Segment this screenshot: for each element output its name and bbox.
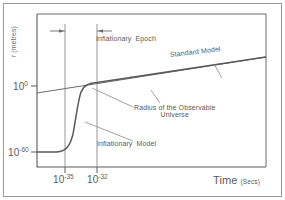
x-tick-label-1: 10-35	[53, 174, 74, 186]
y-tick-label-bottom: 10-60	[8, 147, 29, 159]
x-axis-title-text: Time	[213, 174, 237, 186]
y-tick-label-top: 100	[13, 81, 28, 93]
x-tick-1-exponent: -35	[64, 173, 73, 180]
y-axis-title: r (metres)	[10, 11, 17, 73]
x-axis-title-units: (Secs)	[241, 178, 260, 185]
epoch-boundary-lines	[65, 24, 97, 167]
x-tick-2-mantissa: 10	[87, 174, 98, 185]
annotation-radius-observable-universe: Radius of the Observable Universe	[134, 104, 215, 119]
inflation-cosmology-figure: r (metres) 100 10-60 10-35 10-32 Time (S…	[0, 0, 285, 200]
annotation-inflationary-epoch: Inflationary Epoch	[96, 35, 156, 42]
x-tick-2-exponent: -32	[98, 173, 107, 180]
epoch-span-arrows	[50, 29, 112, 33]
annotation-leader-lines	[85, 64, 222, 141]
y-tick-top-mantissa: 10	[13, 81, 24, 92]
y-tick-top-exponent: 0	[24, 80, 28, 87]
y-axis-ticks	[31, 86, 37, 152]
y-tick-bottom-mantissa: 10	[8, 147, 19, 158]
y-tick-bottom-exponent: -60	[19, 146, 28, 153]
x-tick-1-mantissa: 10	[53, 174, 64, 185]
x-axis-title: Time (Secs)	[213, 175, 260, 187]
plot-canvas	[0, 0, 285, 200]
annotation-inflationary-model: Inflationary Model	[97, 140, 156, 147]
x-tick-label-2: 10-32	[87, 174, 108, 186]
